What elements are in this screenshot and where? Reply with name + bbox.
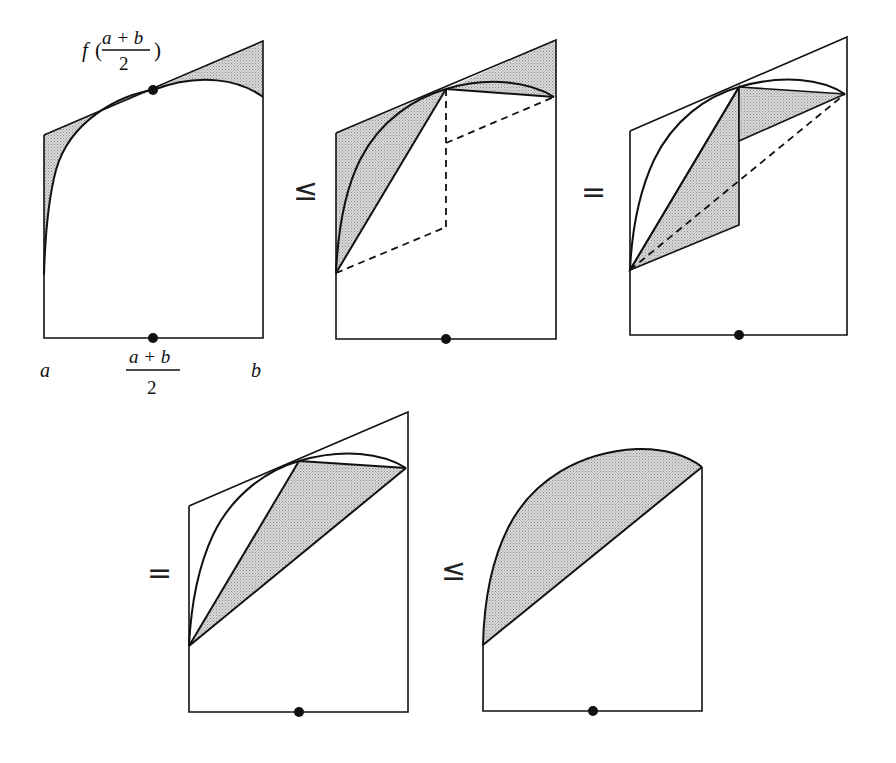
panel-1 (44, 41, 263, 343)
panel-4 (189, 412, 408, 717)
f-midpoint-label: f ( a + b 2 ) (82, 27, 161, 74)
midpoint-dot (148, 333, 158, 343)
mid-denominator-text: 2 (147, 377, 157, 398)
label-a: a (40, 359, 50, 381)
shaded-segment (483, 449, 702, 645)
less-equal-symbol-2: ≤ (441, 552, 466, 587)
label-b: b (251, 359, 261, 381)
midpoint-label: a + b 2 (126, 346, 180, 398)
midpoint-dot (734, 330, 744, 340)
shaded-left-gap (44, 90, 153, 275)
tangent-point-dot (148, 85, 158, 95)
denominator-text: 2 (119, 53, 129, 74)
shaded-right-quad (739, 87, 845, 141)
concave-curve (44, 80, 263, 275)
midpoint-dot (588, 706, 598, 716)
panel-2 (336, 40, 556, 344)
less-equal-symbol-1: ≤ (293, 172, 318, 207)
shaded-right-region (446, 40, 556, 97)
panel-5 (483, 449, 702, 716)
equals-symbol-1: = (581, 174, 606, 209)
panel-3 (630, 37, 847, 340)
midpoint-dot (441, 334, 451, 344)
f-symbol: f (82, 38, 91, 62)
midpoint-dot (294, 707, 304, 717)
numerator-text: a + b (102, 27, 143, 48)
equals-symbol-2: = (147, 555, 172, 590)
close-paren: ) (154, 38, 161, 62)
mid-numerator-text: a + b (129, 346, 170, 367)
open-paren: ( (95, 38, 102, 62)
inequality-proof-diagram: f ( a + b 2 ) a b a + b 2 ≤ = (0, 0, 896, 763)
